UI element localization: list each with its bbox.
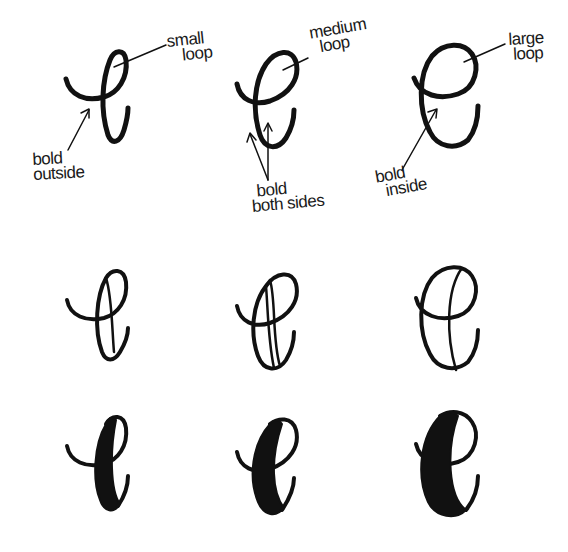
small-loop-label: small loop bbox=[166, 29, 213, 63]
filled-large-loop-e bbox=[416, 412, 478, 516]
filled-small-loop-e bbox=[67, 417, 128, 510]
bold-both-sides-label: bold both sides bbox=[250, 178, 325, 214]
label-line: outside bbox=[33, 164, 85, 182]
bold-inside-label: bold inside bbox=[374, 161, 428, 199]
outlined-small-loop-e bbox=[67, 271, 128, 360]
bold-outside-label: bold outside bbox=[32, 149, 85, 182]
outlined-large-loop-e bbox=[416, 267, 478, 370]
lettering-diagram bbox=[0, 0, 568, 552]
bold-outside-arrow bbox=[68, 109, 89, 150]
medium-loop-letter-e bbox=[237, 52, 297, 146]
outlined-medium-loop-e bbox=[237, 274, 297, 368]
filled-medium-loop-e bbox=[237, 419, 297, 514]
small-loop-pointer-line bbox=[114, 45, 166, 67]
label-line: loop bbox=[509, 45, 545, 62]
large-loop-label: large loop bbox=[508, 30, 545, 62]
